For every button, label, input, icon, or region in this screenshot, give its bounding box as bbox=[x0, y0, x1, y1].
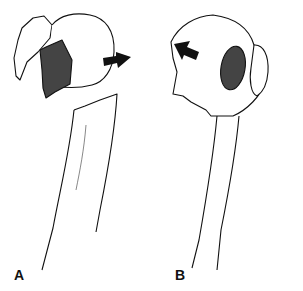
humerus-drawing-b bbox=[151, 0, 302, 291]
humerus-drawing-a bbox=[0, 0, 151, 291]
panel-label-a: A bbox=[14, 267, 24, 283]
panel-b: B bbox=[151, 0, 302, 291]
panel-label-b: B bbox=[175, 267, 185, 283]
panel-a: A bbox=[0, 0, 151, 291]
